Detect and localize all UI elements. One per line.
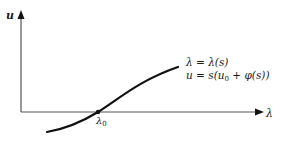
lambda0-label: λ0 (96, 116, 107, 128)
y-axis-arrow-icon (18, 10, 25, 19)
eq1-rhs: λ(s) (208, 56, 228, 68)
eq1-equals: = (193, 56, 208, 68)
equation-u: u = s(u0 + φ(s)) (186, 70, 269, 83)
y-axis-label: u (6, 10, 14, 21)
eq2-rhs-post: + φ(s)) (229, 69, 270, 81)
lambda0-point (96, 110, 100, 114)
bifurcation-diagram: u λ λ0 λ = λ(s) u = s(u0 + φ(s)) (0, 0, 281, 143)
solution-curve (47, 67, 178, 132)
x-axis-label: λ (266, 108, 273, 119)
eq2-rhs-pre: s(u (208, 69, 224, 81)
eq1-lhs: λ (186, 56, 193, 68)
x-axis-arrow-icon (255, 109, 264, 116)
eq2-lhs: u (186, 69, 193, 81)
lambda0-subscript: 0 (102, 120, 106, 128)
eq2-equals: = (193, 69, 208, 81)
equation-lambda: λ = λ(s) (186, 57, 228, 68)
